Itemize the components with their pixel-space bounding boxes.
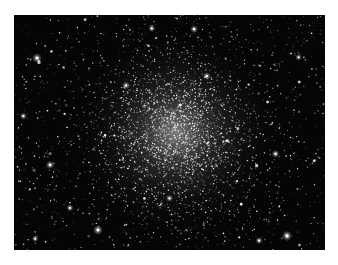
star-cluster-photo	[14, 15, 325, 250]
astronomy-photo-page	[0, 0, 338, 265]
